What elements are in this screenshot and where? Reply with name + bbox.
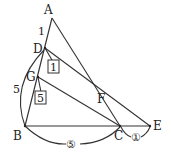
db-arc-length: 5: [13, 83, 20, 96]
point-d: [44, 47, 46, 49]
arc-ce-right: [141, 127, 150, 137]
label-f: F: [97, 92, 105, 106]
geometry-diagram: A D G B C E F 1 5 1 5 ⑤ ①: [0, 0, 171, 155]
label-d: D: [33, 42, 43, 56]
bc-ratio: ⑤: [66, 138, 76, 151]
point-g: [37, 76, 39, 78]
arc-bc-left: [25, 126, 66, 144]
point-c: [119, 125, 121, 127]
label-e: E: [153, 119, 162, 133]
leader-bottom: [38, 77, 41, 92]
segment-ac: [52, 18, 120, 126]
ce-ratio: ①: [131, 131, 141, 144]
label-a: A: [43, 3, 53, 17]
segment-de: [45, 48, 150, 126]
point-e: [149, 125, 151, 127]
label-g: G: [26, 70, 36, 84]
point-b: [24, 125, 26, 127]
label-b: B: [13, 129, 22, 143]
boxed-bottom-value: 5: [37, 92, 44, 105]
boxed-top-value: 1: [50, 61, 57, 74]
ad-length: 1: [38, 25, 45, 38]
segment-gc: [38, 77, 120, 126]
leader-top: [45, 48, 52, 60]
label-c: C: [114, 129, 123, 143]
